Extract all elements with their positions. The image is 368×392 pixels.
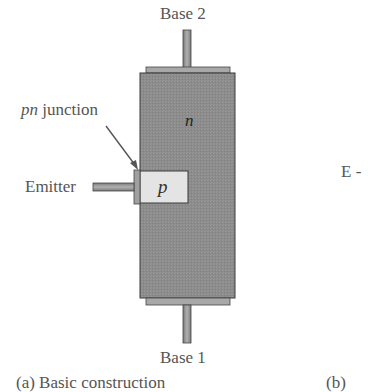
right-figure-partial-label: E - [341,163,361,180]
n-region-label: n [185,112,194,129]
emitter-contact-plate [134,170,140,204]
pn-junction-label: pn junction [21,101,98,118]
caption-a: (a) Basic construction [16,374,165,391]
emitter-label: Emitter [25,178,76,195]
caption-b: (b) [326,374,346,391]
pn-junction-label-rest: junction [38,100,98,119]
base1-label: Base 1 [160,349,206,366]
base1-terminal-rod [183,305,191,343]
base2-contact-plate [146,67,230,73]
base2-label: Base 2 [160,5,206,22]
p-region-label: p [158,177,168,196]
base1-contact-plate [146,298,230,305]
base2-terminal-rod [183,30,191,68]
pn-junction-arrow [106,126,138,170]
emitter-terminal-rod [93,183,134,191]
pn-junction-label-italic: pn [21,100,38,119]
